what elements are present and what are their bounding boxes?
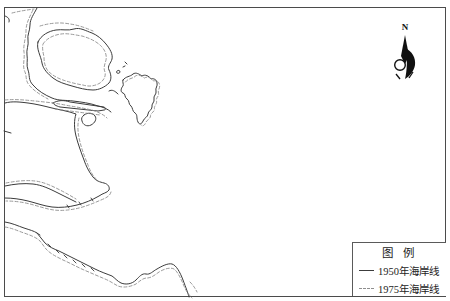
coastline-1975-layer	[5, 9, 197, 298]
north-arrow-icon	[395, 35, 415, 79]
small-island	[82, 113, 96, 126]
south-coast-1975	[5, 227, 197, 298]
channel-south-bank-and-peninsula	[5, 102, 109, 208]
solid-line-sample-icon	[359, 270, 374, 271]
legend-label-1975: 1975年海岸线	[378, 281, 439, 296]
legend-label-1950: 1950年海岸线	[378, 263, 439, 278]
islet-marks	[109, 62, 127, 94]
lagoon-1975	[40, 23, 106, 86]
east-landmass-1975	[126, 75, 160, 126]
lagoon-shoreline	[38, 28, 113, 90]
south-coast-line	[5, 222, 189, 297]
north-label: N	[398, 22, 412, 32]
cliff-hachure-marks	[37, 198, 94, 271]
peninsula-1975	[6, 118, 111, 210]
sand-spit-line	[5, 184, 76, 202]
border-coast-fragments	[4, 16, 11, 133]
dashed-line-sample-icon	[359, 288, 374, 289]
coastline-1950-layer	[4, 8, 189, 297]
legend-box: 图 例 1950年海岸线 1975年海岸线	[352, 242, 446, 296]
legend-title: 图 例	[359, 246, 441, 260]
legend-item-1950: 1950年海岸线	[359, 263, 441, 278]
coastline-map: N 图 例 1950年海岸线 1975年海岸线	[0, 0, 450, 301]
legend-item-1975: 1975年海岸线	[359, 281, 441, 296]
